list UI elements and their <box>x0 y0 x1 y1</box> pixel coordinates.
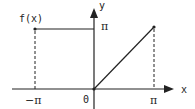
y-axis-arrow-icon <box>90 8 98 18</box>
piecewise-function-diagram: f(x) y π x −π 0 π <box>0 0 195 109</box>
function-label: f(x) <box>19 13 43 24</box>
x-tick-neg-pi-label: −π <box>25 94 41 107</box>
linear-segment <box>94 27 154 89</box>
x-tick-zero-label: 0 <box>83 94 89 105</box>
y-tick-pi-label: π <box>101 20 108 33</box>
x-tick-pi-label: π <box>150 94 157 107</box>
origin-dot <box>92 87 95 90</box>
x-axis-label: x <box>181 84 187 95</box>
y-axis-label: y <box>99 0 105 11</box>
x-axis-arrow-icon <box>164 85 174 93</box>
right-endpoint-dot <box>152 25 155 28</box>
left-endpoint-dot <box>33 27 36 30</box>
